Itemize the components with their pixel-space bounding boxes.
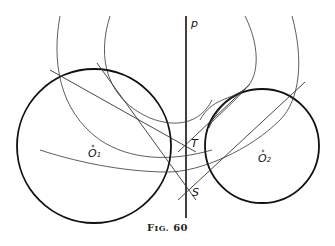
label-s: S: [192, 187, 199, 198]
label-o2: O2: [258, 153, 271, 164]
caption-smallcaps: IG.: [155, 223, 170, 233]
label-p: p: [191, 18, 198, 29]
caption-prefix: F: [147, 222, 155, 233]
label-o1-letter: O: [88, 147, 97, 160]
line-t-left: [50, 70, 196, 152]
figure-caption: FIG. 60: [0, 222, 335, 233]
construction-diagram: [0, 0, 335, 246]
label-o1: O1: [88, 148, 101, 159]
caption-number: 60: [173, 222, 188, 233]
arc-aux-2: [104, 16, 212, 123]
label-t: T: [191, 138, 198, 149]
label-o1-sub: 1: [97, 151, 101, 159]
line-s-left: [97, 63, 196, 200]
line-t-right: [178, 84, 250, 152]
label-o2-sub: 2: [267, 156, 271, 164]
arc-aux-4: [40, 16, 299, 172]
label-o2-letter: O: [258, 152, 267, 165]
